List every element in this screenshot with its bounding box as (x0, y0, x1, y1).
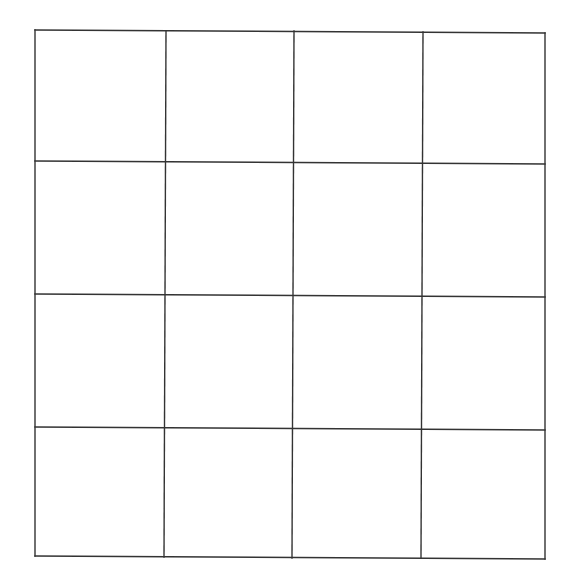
horizontal-grid-lines (35, 30, 545, 559)
horizontal-line-2 (35, 294, 545, 297)
vertical-line-1 (164, 31, 166, 557)
horizontal-line-1 (35, 161, 545, 164)
grid-diagram (0, 0, 568, 585)
horizontal-line-4 (35, 556, 545, 559)
horizontal-line-0 (35, 30, 545, 33)
vertical-line-3 (421, 32, 423, 558)
horizontal-line-3 (35, 427, 545, 430)
vertical-line-2 (292, 31, 294, 558)
